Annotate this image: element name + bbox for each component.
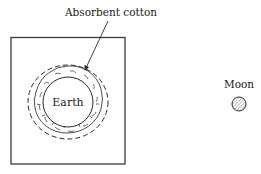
moon-label: Moon	[224, 78, 254, 90]
cotton-pointer-arrow	[85, 21, 108, 70]
earth-moon-diagram: Earth Absorbent cotton Moon	[0, 0, 261, 174]
earth-label: Earth	[52, 96, 83, 109]
absorbent-cotton-label: Absorbent cotton	[64, 6, 157, 18]
moon-circle	[232, 97, 246, 111]
